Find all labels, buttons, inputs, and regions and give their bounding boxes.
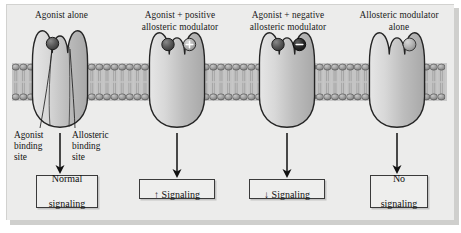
column-heading-modulator-alone: Allosteric modulator alone (347, 10, 451, 33)
heading-line: allosteric modulator (238, 22, 338, 34)
heading-line: alone (347, 22, 451, 34)
result-box-normal-signaling: Normal signaling (36, 175, 98, 208)
heading-line: Agonist alone (14, 10, 109, 22)
result-line: ↑ Signaling (154, 189, 200, 200)
result-box-decreased-signaling: ↓ Signaling (249, 179, 325, 199)
result-box-increased-signaling: ↑ Signaling (139, 179, 215, 199)
result-line: signaling (49, 198, 86, 211)
result-line: Normal (49, 173, 86, 186)
result-line: No (381, 173, 418, 186)
figure-root: Agonist alone Agonist + positive alloste… (0, 0, 461, 233)
label-line: binding (72, 141, 128, 152)
label-agonist-binding-site: Agonist binding site (14, 130, 62, 164)
column-heading-agonist-alone: Agonist alone (14, 10, 109, 22)
label-line: Agonist (14, 130, 62, 141)
column-heading-agonist-negative-modulator: Agonist + negative allosteric modulator (238, 10, 338, 33)
text-layer: Agonist alone Agonist + positive alloste… (0, 0, 461, 233)
label-allosteric-binding-site: Allosteric binding site (72, 130, 128, 164)
result-box-no-signaling: No signaling (370, 175, 428, 208)
label-line: binding (14, 141, 62, 152)
column-heading-agonist-positive-modulator: Agonist + positive allosteric modulator (130, 10, 230, 33)
heading-line: Allosteric modulator (347, 10, 451, 22)
label-line: Allosteric (72, 130, 128, 141)
result-line: ↓ Signaling (264, 189, 310, 200)
heading-line: Agonist + positive (130, 10, 230, 22)
heading-line: Agonist + negative (238, 10, 338, 22)
result-line: signaling (381, 198, 418, 211)
heading-line: allosteric modulator (130, 22, 230, 34)
